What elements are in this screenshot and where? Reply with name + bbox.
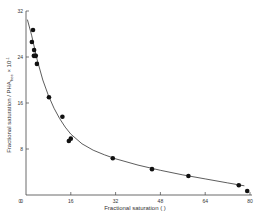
x-tick-label: 48 [158,198,164,204]
data-point [237,183,242,188]
data-point [30,40,35,45]
y-axis-title-exp: -1 [5,56,10,60]
y-tick-label: 24 [17,54,23,60]
data-point [33,54,38,59]
data-point [245,189,250,194]
data-points [30,28,250,194]
x-axis-title: Fractional saturation ( ) [104,205,166,211]
fitted-curve [27,20,244,186]
y-ticks: 08162432 [17,8,29,204]
data-point [35,62,40,67]
x-ticks: 01632486480 [19,192,253,204]
data-point [150,167,155,172]
chart: 08162432 01632486480 Fractional saturati… [0,0,261,216]
data-point [47,95,52,100]
x-tick-label: 64 [202,198,208,204]
data-point [111,156,116,161]
y-tick-label: 16 [17,100,23,106]
data-point [186,174,191,179]
data-point [60,115,65,120]
x-tick-label: 32 [113,198,119,204]
x-tick-label: 80 [247,198,253,204]
y-tick-label: 32 [17,8,23,14]
plot-area: 08162432 01632486480 [17,8,253,204]
data-point [69,136,74,141]
data-point [32,48,37,53]
x-tick-label: 0 [19,198,22,204]
y-axis-title-scale: × 10 [6,60,12,74]
y-axis-title-main: Fractional saturation / PHA [6,81,12,153]
x-tick-label: 16 [68,198,74,204]
y-axis-title: Fractional saturation / PHAfree × 10-1 [5,56,14,152]
data-point [31,28,36,33]
y-tick-label: 8 [20,146,23,152]
